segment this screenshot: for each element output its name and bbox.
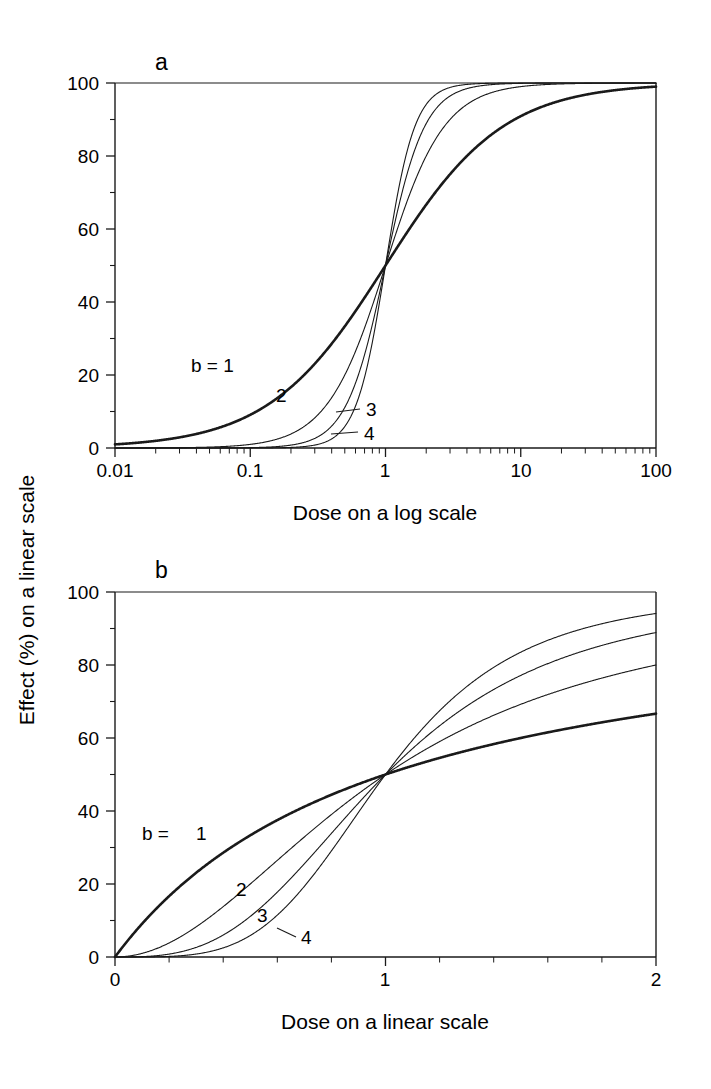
- figure-background: [0, 0, 711, 1089]
- panel-b-curve-label-3: 3: [257, 905, 268, 926]
- panel-a-curve-label-4: 4: [364, 423, 375, 444]
- panel-a-ytick-0: 0: [88, 438, 99, 459]
- panel-a-xtick-2: 1: [380, 460, 391, 481]
- dose-response-figure: Effect (%) on a linear scale a 0 20 4: [0, 0, 711, 1089]
- panel-a-xtick-4: 100: [640, 460, 672, 481]
- panel-a-x-axis-title: Dose on a log scale: [293, 501, 477, 524]
- panel-a-ytick-80: 80: [78, 146, 99, 167]
- panel-a-curve-label-b1: b = 1: [191, 355, 234, 376]
- panel-a-xtick-0: 0.01: [97, 460, 134, 481]
- panel-a-xtick-3: 10: [510, 460, 531, 481]
- panel-b-ytick-0: 0: [88, 947, 99, 968]
- shared-y-axis-title: Effect (%) on a linear scale: [15, 475, 38, 726]
- panel-b-xtick-0: 0: [110, 969, 121, 990]
- panel-b-xtick-2: 2: [651, 969, 662, 990]
- panel-b-ytick-20: 20: [78, 874, 99, 895]
- panel-b-xtick-1: 1: [380, 969, 391, 990]
- panel-b-ytick-100: 100: [67, 582, 99, 603]
- panel-a-curve-label-3: 3: [366, 399, 377, 420]
- panel-a-ytick-60: 60: [78, 219, 99, 240]
- panel-b-ytick-60: 60: [78, 728, 99, 749]
- panel-b-curve-label-beq: b =: [142, 823, 169, 844]
- panel-a-ytick-20: 20: [78, 365, 99, 386]
- panel-b-curve-label-4: 4: [301, 927, 312, 948]
- panel-b-x-axis-title: Dose on a linear scale: [281, 1010, 489, 1033]
- panel-b-curve-label-1: 1: [196, 823, 207, 844]
- panel-a-curve-label-2: 2: [276, 385, 287, 406]
- panel-a-label: a: [155, 49, 168, 75]
- panel-b-label: b: [155, 557, 168, 583]
- panel-b-curve-label-2: 2: [236, 879, 247, 900]
- panel-b-ytick-40: 40: [78, 801, 99, 822]
- panel-a-ytick-100: 100: [67, 73, 99, 94]
- panel-a-ytick-40: 40: [78, 292, 99, 313]
- panel-b-ytick-80: 80: [78, 655, 99, 676]
- panel-a-xtick-1: 0.1: [237, 460, 263, 481]
